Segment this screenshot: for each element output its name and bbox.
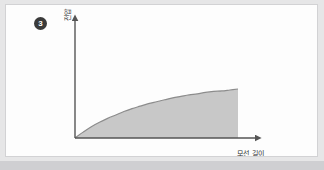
plot-area [0,0,324,170]
area-fill [75,89,238,138]
bottom-band [0,161,324,170]
figure-screenshot: 3 전압 모선 길이 [0,0,324,170]
